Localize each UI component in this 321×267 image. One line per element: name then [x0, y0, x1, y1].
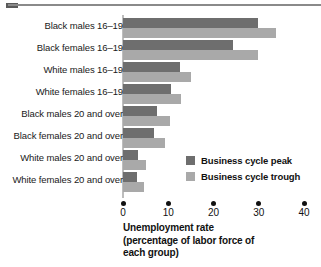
bar-trough: [123, 72, 191, 82]
legend-swatch-icon: [186, 172, 195, 181]
bar-peak: [123, 150, 138, 160]
x-axis-title-line: Unemployment rate: [123, 222, 318, 235]
legend-swatch-icon: [186, 156, 195, 165]
bar-trough: [123, 138, 165, 148]
x-axis-title: Unemployment rate (percentage of labor f…: [123, 222, 318, 260]
x-tick-dot: [256, 201, 261, 206]
bar-peak: [123, 106, 157, 116]
bar-trough: [123, 28, 276, 38]
legend-label: Business cycle peak: [201, 155, 292, 166]
x-tick-label: 20: [202, 207, 226, 218]
bar-trough: [123, 94, 181, 104]
bar-trough: [123, 50, 258, 60]
bar-peak: [123, 84, 171, 94]
bar-peak: [123, 18, 258, 28]
category-label: White males 16–19: [43, 64, 123, 75]
x-axis-title-line: (percentage of labor force of: [123, 235, 318, 248]
x-tick-dot: [121, 201, 126, 206]
bar-trough: [123, 116, 170, 126]
x-tick-label: 0: [111, 207, 135, 218]
category-label: Black males 16–19: [44, 20, 123, 31]
category-label: Black females 16–19: [37, 42, 123, 53]
bar-peak: [123, 40, 233, 50]
category-label: White females 16–19: [36, 86, 123, 97]
bar-peak: [123, 172, 137, 182]
x-tick-label: 10: [156, 207, 180, 218]
bar-trough: [123, 182, 144, 192]
legend-item-peak: Business cycle peak: [186, 152, 300, 168]
bar-trough: [123, 160, 146, 170]
legend-label: Business cycle trough: [201, 171, 300, 182]
x-tick-label: 40: [292, 207, 316, 218]
chart-legend: Business cycle peak Business cycle troug…: [186, 152, 300, 184]
x-tick-label: 30: [247, 207, 271, 218]
category-label: White females 20 and over: [12, 174, 123, 185]
x-tick-dot: [302, 201, 307, 206]
category-label: White males 20 and over: [20, 152, 123, 163]
bar-peak: [123, 128, 154, 138]
bar-peak: [123, 62, 180, 72]
x-tick-dot: [211, 201, 216, 206]
category-label: Black females 20 and over: [14, 130, 123, 141]
x-tick-dot: [166, 201, 171, 206]
legend-item-trough: Business cycle trough: [186, 168, 300, 184]
unemployment-rate-bar-chart: Black males 16–19 Black females 16–19 Wh…: [0, 0, 321, 267]
category-label: Black males 20 and over: [21, 108, 123, 119]
x-axis-title-line: each group): [123, 247, 318, 260]
